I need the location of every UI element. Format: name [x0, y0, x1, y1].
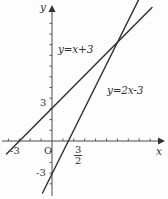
x-tick-label-negative-3: -3 — [10, 146, 20, 156]
fraction-denominator: 2 — [74, 156, 82, 166]
origin-label: O — [44, 146, 52, 156]
plot-canvas — [0, 0, 168, 199]
equation-label-line1: y=x+3 — [58, 44, 93, 55]
equation-label-line2: y=2x-3 — [107, 85, 143, 96]
line-y-equals-2x-minus-3 — [43, 0, 142, 193]
graph-figure: y=x+3 y=2x-3 y x 3 -3 -3 3 2 O — [0, 0, 168, 199]
x-tick-label-three-halves: 3 2 — [74, 145, 82, 166]
y-tick-label-negative-3: -3 — [36, 168, 46, 178]
y-axis-arrowhead — [49, 5, 56, 12]
x-axis-label: x — [156, 146, 162, 157]
line-y-equals-x-plus-3 — [7, 8, 153, 155]
y-tick-label-3: 3 — [40, 98, 46, 108]
x-axis-arrowhead — [158, 138, 165, 145]
y-axis-label: y — [40, 2, 46, 13]
